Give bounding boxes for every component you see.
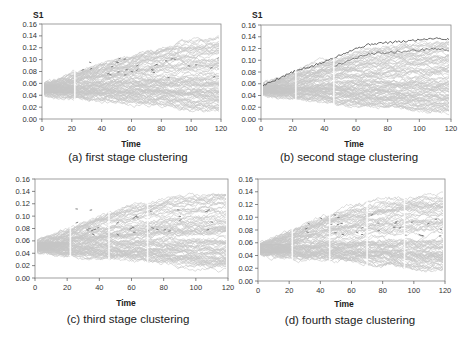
x-axis-label: Time xyxy=(116,298,136,308)
y-tick-label: 0.16 xyxy=(238,175,253,184)
panel-b: S1 0.000.020.040.060.080.100.120.140.160… xyxy=(232,0,464,170)
x-tick-label: 120 xyxy=(439,286,452,295)
y-tick-label: 0.06 xyxy=(241,79,256,88)
x-tick-label: 0 xyxy=(256,286,260,295)
y-tick-label: 0.06 xyxy=(22,79,37,88)
y-tick-label: 0.00 xyxy=(22,115,37,124)
y-tick-label: 0.16 xyxy=(22,20,37,29)
y-tick-label: 0.04 xyxy=(15,249,30,258)
x-tick-label: 60 xyxy=(347,286,355,295)
y-tick-label: 0.02 xyxy=(15,261,30,270)
panel-caption: (d) fourth stage clustering xyxy=(285,314,415,326)
x-tick-label: 0 xyxy=(40,124,44,133)
x-tick-label: 80 xyxy=(157,124,165,133)
x-tick-label: 80 xyxy=(159,283,167,292)
stage-break xyxy=(329,211,331,266)
stage-break xyxy=(70,225,72,259)
panel-caption: (c) third stage clustering xyxy=(67,313,190,325)
x-tick-label: 120 xyxy=(445,124,458,133)
panel-caption: (a) first stage clustering xyxy=(68,151,188,163)
y-tick-label: 0.14 xyxy=(238,187,253,196)
y-tick-label: 0.08 xyxy=(22,67,37,76)
y-tick-label: 0.14 xyxy=(22,31,37,40)
stage-break xyxy=(333,55,335,106)
y-tick-label: 0.12 xyxy=(241,44,256,53)
y-tick-label: 0.12 xyxy=(22,43,37,52)
x-axis-label: Time xyxy=(121,139,141,149)
x-tick-label: 60 xyxy=(352,124,360,133)
x-tick-label: 100 xyxy=(408,286,421,295)
y-tick-label: 0.02 xyxy=(241,103,256,112)
x-axis-label: Time xyxy=(334,299,354,309)
stage-break xyxy=(295,69,297,102)
x-tick-label: 40 xyxy=(320,124,328,133)
plot-a: 0.000.020.040.060.080.100.120.140.160204… xyxy=(0,0,232,170)
y-tick-label: 0.10 xyxy=(22,55,37,64)
y-tick-label: 0.00 xyxy=(238,277,253,286)
y-tick-label: 0.10 xyxy=(15,212,30,221)
x-tick-label: 120 xyxy=(215,124,228,133)
y-tick-label: 0.06 xyxy=(15,236,30,245)
y-tick-label: 0.12 xyxy=(15,199,30,208)
panel-caption: (b) second stage clustering xyxy=(280,151,418,163)
stage-break xyxy=(404,193,406,275)
panel-a: S1 0.000.020.040.060.080.100.120.140.160… xyxy=(0,0,232,170)
y-tick-label: 0.08 xyxy=(241,68,256,77)
y-tick-label: 0.10 xyxy=(241,56,256,65)
stage-break xyxy=(108,210,110,264)
y-tick-label: 0.14 xyxy=(241,32,256,41)
y-tick-label: 0.04 xyxy=(238,251,253,260)
y-tick-label: 0.06 xyxy=(238,238,253,247)
x-tick-label: 80 xyxy=(383,124,391,133)
x-tick-label: 100 xyxy=(190,283,203,292)
x-tick-label: 80 xyxy=(378,286,386,295)
y-tick-label: 0.00 xyxy=(241,115,256,124)
x-tick-label: 20 xyxy=(63,283,71,292)
y-tick-label: 0.08 xyxy=(238,226,253,235)
x-tick-label: 100 xyxy=(413,124,426,133)
y-tick-label: 0.02 xyxy=(238,264,253,273)
y-tick-label: 0.14 xyxy=(15,187,30,196)
y-tick-label: 0.08 xyxy=(15,224,30,233)
y-tick-label: 0.00 xyxy=(15,274,30,283)
x-axis-label: Time xyxy=(344,139,364,149)
y-tick-label: 0.04 xyxy=(22,91,37,100)
x-tick-label: 60 xyxy=(127,124,135,133)
x-tick-label: 20 xyxy=(68,124,76,133)
x-tick-label: 40 xyxy=(316,286,324,295)
y-tick-label: 0.04 xyxy=(241,91,256,100)
x-tick-label: 40 xyxy=(97,124,105,133)
stage-break xyxy=(147,199,149,267)
x-tick-label: 0 xyxy=(259,124,263,133)
x-tick-label: 20 xyxy=(288,124,296,133)
stage-break xyxy=(74,70,76,101)
stage-break xyxy=(291,227,293,263)
x-tick-label: 20 xyxy=(285,286,293,295)
y-tick-label: 0.16 xyxy=(15,175,30,184)
stage-break xyxy=(366,199,368,269)
y-tick-label: 0.02 xyxy=(22,103,37,112)
x-tick-label: 60 xyxy=(127,283,135,292)
panel-c: 0.000.020.040.060.080.100.120.140.160204… xyxy=(0,170,232,339)
y-tick-label: 0.16 xyxy=(241,21,256,30)
x-tick-label: 0 xyxy=(33,283,37,292)
y-tick-label: 0.10 xyxy=(238,213,253,222)
y-tick-label: 0.12 xyxy=(238,200,253,209)
panel-d: 0.000.020.040.060.080.100.120.140.160204… xyxy=(232,170,464,339)
x-tick-label: 100 xyxy=(185,124,198,133)
x-tick-label: 40 xyxy=(95,283,103,292)
